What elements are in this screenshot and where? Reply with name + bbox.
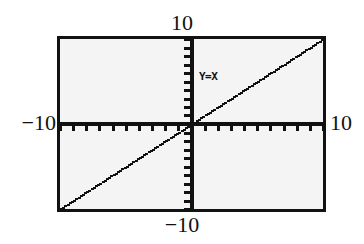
plot-area: Y=X xyxy=(60,39,323,209)
y-axis-min-label: −10 xyxy=(0,214,364,236)
graph-figure: 10 −10 10 −10 Y=X xyxy=(0,0,364,244)
equation-annotation: Y=X xyxy=(199,71,217,83)
y-axis-max-label: 10 xyxy=(0,12,364,34)
plot-canvas xyxy=(60,39,323,209)
plot-frame: Y=X xyxy=(57,36,326,212)
x-axis-max-label: 10 xyxy=(330,112,364,134)
x-axis-min-label: −10 xyxy=(4,112,56,134)
